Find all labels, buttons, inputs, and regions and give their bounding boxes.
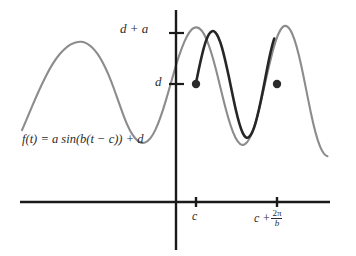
x-axis-label-c-plus-period: c + 2π b xyxy=(254,208,282,228)
y-axis-label-d-plus-a: d + a xyxy=(120,22,148,35)
figure-background xyxy=(0,0,356,256)
sinusoid-figure xyxy=(0,0,356,256)
x-axis-label-c-plus-period-base: c + xyxy=(254,212,270,224)
function-equation-label: f(t) = a sin(b(t − c)) + d xyxy=(22,133,143,146)
data-point-period-end xyxy=(273,80,281,88)
period-fraction-numerator: 2π xyxy=(271,209,282,218)
data-point-period-start xyxy=(192,80,200,88)
y-axis-label-d: d xyxy=(155,75,162,88)
x-axis-label-c: c xyxy=(192,210,197,222)
period-fraction-denominator: b xyxy=(271,218,282,228)
period-fraction: 2π b xyxy=(271,209,282,229)
